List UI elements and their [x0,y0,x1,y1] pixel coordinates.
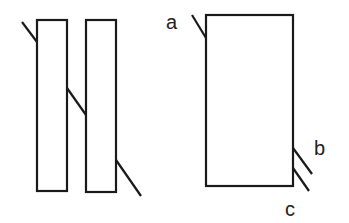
right-figure [192,15,312,191]
stroke-c [293,168,309,191]
diagram-canvas: a b c [0,0,349,223]
right-rectangle [206,15,293,186]
label-a: a [166,11,178,33]
middle-connecting-stroke [67,88,86,115]
bottom-diagonal-stroke [116,160,141,196]
left-rectangle-1 [37,20,67,191]
stroke-b [293,148,312,174]
left-rectangle-2 [86,20,116,192]
left-figure [22,20,141,196]
label-c: c [285,198,295,220]
label-b: b [314,137,325,159]
stroke-a [192,15,206,38]
top-diagonal-stroke [22,22,37,42]
